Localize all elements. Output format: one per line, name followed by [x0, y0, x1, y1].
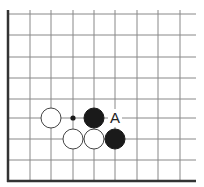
board-grid: [8, 10, 196, 181]
white-stone-icon: [63, 129, 83, 149]
point-label: A: [110, 109, 120, 126]
black-stone-icon: [84, 108, 104, 128]
markers-layer: [70, 115, 75, 120]
black-stone-icon: [105, 129, 125, 149]
labels-layer: A: [108, 109, 122, 127]
white-stone-icon: [41, 108, 61, 128]
small-dot-marker-icon: [70, 115, 75, 120]
go-board-diagram: A: [0, 0, 204, 187]
board-edges: [7, 10, 196, 182]
white-stone-icon: [84, 129, 104, 149]
